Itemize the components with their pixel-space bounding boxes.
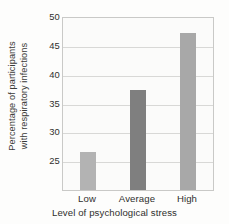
y-tick-label-50: 50 [38, 11, 60, 22]
y-tick-label-30: 30 [38, 126, 60, 137]
x-axis-title: Level of psychological stress [0, 207, 229, 218]
x-tick-label-low: Low [78, 193, 96, 204]
y-tick-label-45: 45 [38, 40, 60, 51]
x-axis-tick-labels: LowAverageHigh [62, 193, 214, 207]
y-tick-label-40: 40 [38, 69, 60, 80]
x-tick-label-high: High [177, 193, 197, 204]
bar-high [180, 33, 196, 190]
bar-chart-figure: Percentage of participants with respirat… [0, 0, 229, 224]
y-tick-label-35: 35 [38, 98, 60, 109]
bar-average [130, 90, 146, 190]
plot-area [62, 17, 214, 191]
bar-low [80, 152, 96, 190]
y-axis-title-line-1: Percentage of participants [7, 41, 19, 150]
y-axis-title-container: Percentage of participants with respirat… [0, 0, 36, 192]
y-tick-label-25: 25 [38, 155, 60, 166]
x-tick-label-average: Average [119, 193, 155, 204]
y-axis-tick-labels: 253035404550 [36, 0, 60, 224]
y-axis-title: Percentage of participants with respirat… [7, 41, 30, 150]
y-axis-title-line-2: with respiratory infections [18, 41, 30, 150]
